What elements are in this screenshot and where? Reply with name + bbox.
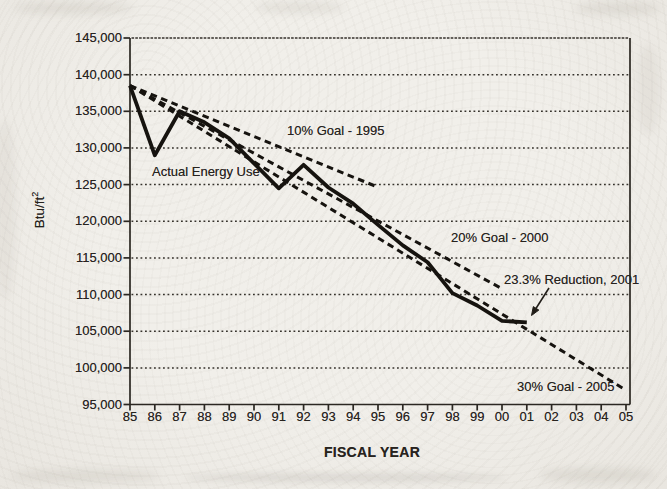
y-tick-label: 105,000: [60, 323, 122, 339]
x-tick-label: 89: [216, 409, 242, 424]
x-tick-label: 98: [439, 409, 465, 424]
x-tick-label: 01: [514, 409, 540, 424]
x-tick-label: 99: [464, 409, 490, 424]
y-tick-label: 140,000: [60, 67, 122, 83]
x-tick-label: 92: [291, 409, 317, 424]
x-tick-label: 97: [415, 409, 441, 424]
x-tick-label: 95: [365, 409, 391, 424]
y-tick-label: 130,000: [60, 140, 122, 156]
scanned-energy-chart-page: Btu/ft2 FISCAL YEAR 145,000140,000135,00…: [0, 0, 667, 489]
y-tick-label: 110,000: [60, 287, 122, 303]
x-tick-label: 03: [563, 409, 589, 424]
x-tick-label: 86: [142, 409, 168, 424]
x-axis-title: FISCAL YEAR: [272, 444, 472, 460]
y-tick-label: 115,000: [60, 250, 122, 266]
goal-10-label: 10% Goal - 1995: [287, 124, 385, 138]
gridlines: [132, 38, 629, 368]
actual-energy-use-label: Actual Energy Use: [152, 165, 260, 179]
x-tick-label: 91: [266, 409, 292, 424]
y-tick-label: 95,000: [60, 397, 122, 413]
y-tick-label: 120,000: [60, 213, 122, 229]
y-axis-title-text: Btu/ft: [32, 197, 47, 229]
x-tick-label: 88: [191, 409, 217, 424]
x-tick-label: 94: [340, 409, 366, 424]
goal-20-label: 20% Goal - 2000: [451, 231, 549, 245]
x-tick-label: 85: [117, 409, 143, 424]
x-tick-label: 04: [588, 409, 614, 424]
y-tick-label: 125,000: [60, 177, 122, 193]
y-axis-title-superscript: 2: [30, 192, 40, 197]
x-tick-label: 02: [539, 409, 565, 424]
y-axis-title: Btu/ft2: [30, 162, 50, 258]
y-tick-label: 135,000: [60, 103, 122, 119]
x-tick-label: 87: [167, 409, 193, 424]
x-tick-label: 96: [390, 409, 416, 424]
x-tick-label: 05: [613, 409, 639, 424]
y-tick-label: 100,000: [60, 360, 122, 376]
x-tick-label: 90: [241, 409, 267, 424]
x-tick-label: 93: [315, 409, 341, 424]
goal-30-label: 30% Goal - 2005: [517, 380, 615, 394]
reduction-arrow: [532, 288, 550, 316]
y-tick-label: 145,000: [60, 30, 122, 46]
x-tick-label: 00: [489, 409, 515, 424]
reduction-label: 23.3% Reduction, 2001: [504, 273, 639, 287]
